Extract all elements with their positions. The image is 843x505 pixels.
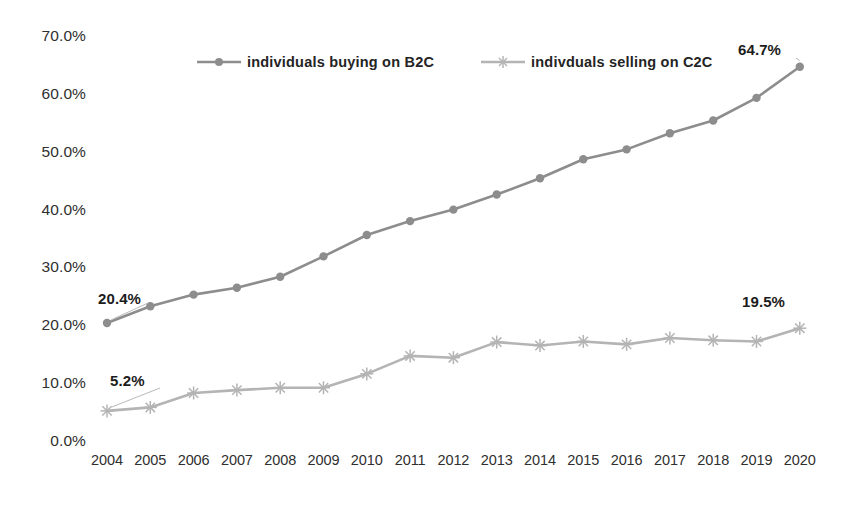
- data-point-marker-circle[interactable]: [493, 190, 501, 198]
- data-label-b2c-2004: 20.4%: [98, 290, 141, 307]
- legend-item-c2c[interactable]: indivduals selling on C2C: [480, 54, 712, 70]
- legend-marker-circle-icon: [196, 55, 242, 69]
- x-axis-tick-label: 2006: [178, 452, 210, 468]
- data-point-marker-star[interactable]: [230, 384, 243, 397]
- plot-area: [0, 0, 843, 505]
- data-point-marker-star[interactable]: [101, 404, 114, 417]
- series-line: [107, 328, 800, 411]
- data-label-c2c-2020: 19.5%: [742, 293, 785, 310]
- data-label-b2c-2020: 64.7%: [738, 41, 781, 58]
- data-point-marker-star[interactable]: [144, 401, 157, 414]
- data-point-marker-star[interactable]: [187, 386, 200, 399]
- x-axis-tick-label: 2013: [481, 452, 513, 468]
- x-axis: 2004200520062007200820092010201120122013…: [0, 452, 843, 478]
- data-point-marker-star[interactable]: [447, 351, 460, 364]
- callout-leader-line: [796, 58, 800, 61]
- x-axis-tick-label: 2004: [91, 452, 123, 468]
- data-point-marker-star[interactable]: [663, 332, 676, 345]
- series-c2c: [101, 322, 807, 418]
- x-axis-tick-label: 2016: [611, 452, 643, 468]
- data-point-marker-circle[interactable]: [579, 155, 587, 163]
- data-point-marker-circle[interactable]: [449, 205, 457, 213]
- x-axis-tick-label: 2012: [437, 452, 469, 468]
- x-axis-tick-label: 2019: [741, 452, 773, 468]
- data-point-marker-star[interactable]: [577, 335, 590, 348]
- legend-label-c2c: indivduals selling on C2C: [531, 54, 712, 70]
- series-b2c: [103, 62, 804, 327]
- data-point-marker-circle[interactable]: [189, 290, 197, 298]
- data-point-marker-star[interactable]: [620, 338, 633, 351]
- data-point-marker-circle[interactable]: [666, 129, 674, 137]
- x-axis-tick-label: 2020: [784, 452, 816, 468]
- data-point-marker-star[interactable]: [793, 322, 806, 335]
- data-point-marker-star[interactable]: [534, 339, 547, 352]
- data-point-marker-circle[interactable]: [752, 94, 760, 102]
- data-point-marker-star[interactable]: [490, 336, 503, 349]
- series-line: [107, 67, 800, 323]
- x-axis-tick-label: 2010: [351, 452, 383, 468]
- x-axis-tick-label: 2017: [654, 452, 686, 468]
- x-axis-tick-label: 2007: [221, 452, 253, 468]
- data-point-marker-circle[interactable]: [796, 62, 804, 70]
- data-point-marker-circle[interactable]: [363, 231, 371, 239]
- data-point-marker-circle[interactable]: [319, 252, 327, 260]
- legend-label-b2c: individuals buying on B2C: [247, 54, 434, 70]
- data-point-marker-circle[interactable]: [406, 217, 414, 225]
- data-point-marker-star[interactable]: [707, 334, 720, 347]
- data-point-marker-star[interactable]: [404, 349, 417, 362]
- legend-marker-star-icon: [480, 55, 526, 69]
- data-point-marker-circle[interactable]: [709, 116, 717, 124]
- data-point-marker-star[interactable]: [317, 381, 330, 394]
- chart-legend: individuals buying on B2C indivduals sel…: [196, 51, 713, 73]
- data-point-marker-star[interactable]: [750, 335, 763, 348]
- x-axis-tick-label: 2005: [134, 452, 166, 468]
- data-point-marker-circle[interactable]: [103, 319, 111, 327]
- x-axis-tick-label: 2015: [567, 452, 599, 468]
- x-axis-tick-label: 2008: [264, 452, 296, 468]
- x-axis-tick-label: 2018: [697, 452, 729, 468]
- legend-item-b2c[interactable]: individuals buying on B2C: [196, 54, 434, 70]
- x-axis-tick-label: 2011: [395, 452, 426, 468]
- data-point-marker-circle[interactable]: [622, 145, 630, 153]
- data-point-marker-circle[interactable]: [276, 273, 284, 281]
- line-chart: 70.0%60.0%50.0%40.0%30.0%20.0%10.0%0.0% …: [0, 0, 843, 505]
- data-label-c2c-2004: 5.2%: [110, 372, 145, 389]
- x-axis-tick-label: 2009: [308, 452, 340, 468]
- x-axis-tick-label: 2014: [524, 452, 556, 468]
- data-point-marker-circle[interactable]: [536, 174, 544, 182]
- data-point-marker-circle[interactable]: [233, 284, 241, 292]
- data-point-marker-star[interactable]: [274, 381, 287, 394]
- data-point-marker-star[interactable]: [360, 367, 373, 380]
